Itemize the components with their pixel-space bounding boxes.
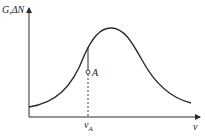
gain-curve — [29, 28, 191, 107]
gain-curve-diagram — [0, 0, 205, 137]
y-axis-label: G,ΔN — [2, 5, 24, 15]
point-a-label: A — [92, 68, 98, 78]
x-marker-label: νA — [84, 120, 93, 133]
subscript-a: A — [88, 125, 92, 133]
point-a-marker — [86, 70, 90, 74]
x-axis-label: ν — [193, 122, 197, 132]
